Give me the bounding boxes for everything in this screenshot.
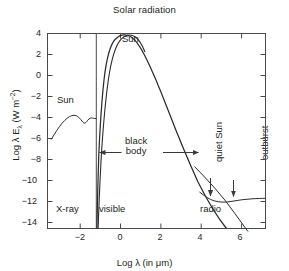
plot-frame — [48, 34, 266, 229]
axis-ticks — [48, 34, 266, 229]
chart-plot-svg — [0, 0, 289, 271]
sun-xray-curve — [51, 115, 96, 139]
quiet-sun-curve — [200, 192, 266, 202]
chart-figure: Solar radiation Log λ (in μm) Log λ Eλ (… — [0, 0, 289, 271]
sun-visible-curve — [98, 35, 145, 228]
black-body-curve — [97, 35, 227, 229]
